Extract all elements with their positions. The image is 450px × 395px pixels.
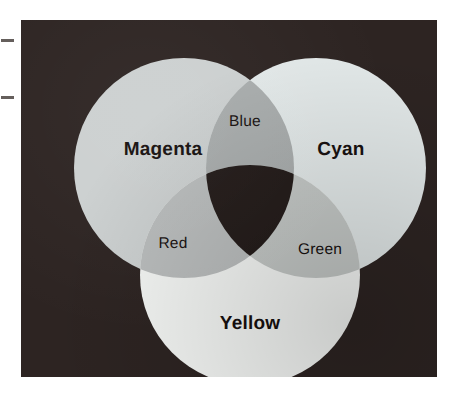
figure-root: Magenta Cyan Yellow Blue Red Green (0, 0, 450, 395)
venn-label-cyan: Cyan (317, 139, 364, 161)
margin-dash-upper-mark (1, 39, 14, 42)
margin-dash-lower-mark (1, 96, 14, 99)
venn-label-yellow: Yellow (220, 313, 280, 335)
venn-label-magenta: Magenta (124, 139, 202, 161)
venn-stage: Magenta Cyan Yellow Blue Red Green (21, 20, 437, 377)
diagram-panel: Magenta Cyan Yellow Blue Red Green (21, 20, 437, 377)
venn-label-red: Red (158, 235, 187, 253)
venn-label-blue: Blue (229, 113, 261, 131)
venn-label-green: Green (298, 241, 342, 259)
